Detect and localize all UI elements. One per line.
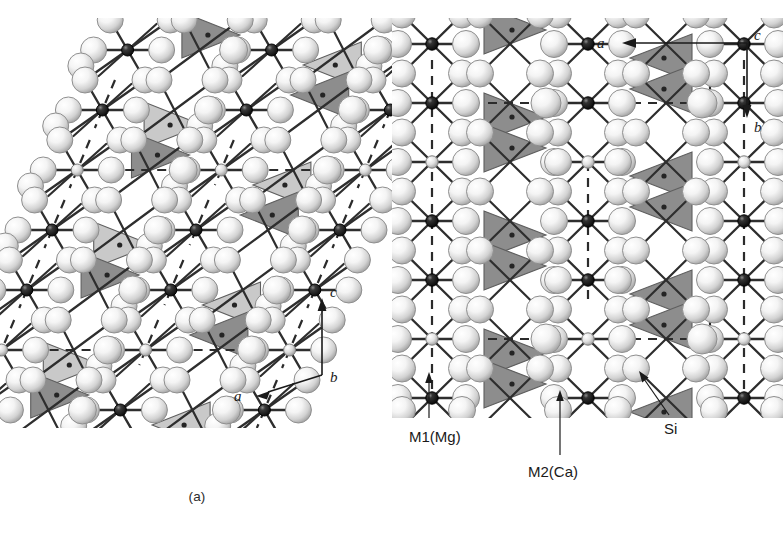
atom-oxygen — [344, 247, 370, 273]
atom-oxygen — [683, 178, 710, 205]
atom-oxygen — [265, 127, 291, 153]
si-center-dot — [168, 122, 173, 127]
atom-oxygen — [392, 397, 416, 424]
atom-oxygen — [70, 247, 96, 273]
atom-cation-m1 — [334, 224, 346, 236]
atom-oxygen — [346, 67, 372, 93]
si-center-dot — [509, 114, 514, 119]
atom-oxygen — [467, 237, 494, 264]
si-center-dot — [54, 392, 59, 397]
atom-oxygen — [217, 217, 243, 243]
label-si: Si — [664, 420, 677, 437]
si-center-dot — [661, 55, 666, 60]
crystal-structure-figure: c b a (a) — [0, 0, 783, 539]
atom-cation-m1 — [738, 274, 750, 286]
si-center-dot — [509, 27, 514, 32]
si-center-dot — [219, 332, 224, 337]
atom-oxygen — [152, 187, 178, 213]
atom-oxygen — [605, 267, 632, 294]
atom-cation-m1 — [122, 44, 134, 56]
atom-cation-m2 — [71, 164, 83, 176]
atom-cation-m1 — [309, 284, 321, 296]
atom-oxygen — [214, 247, 240, 273]
atom-oxygen — [392, 1, 416, 28]
atom-cation-m1 — [582, 274, 594, 286]
atom-oxygen — [220, 36, 248, 64]
si-center-dot — [67, 362, 72, 367]
atom-oxygen — [296, 187, 322, 213]
atom-oxygen — [68, 396, 96, 424]
panel-b: c b a M1(Mg) M2(Ca) Si (b) — [392, 0, 783, 539]
atom-oxygen — [467, 119, 494, 146]
panel-b-annotations: M1(Mg) M2(Ca) Si — [409, 371, 677, 480]
atom-oxygen — [47, 127, 73, 153]
atom-oxygen — [245, 307, 271, 333]
atom-oxygen — [683, 60, 710, 87]
atom-oxygen — [453, 31, 480, 58]
si-center-dot — [509, 381, 514, 386]
atom-oxygen — [697, 31, 724, 58]
atom-oxygen — [392, 31, 412, 58]
atom-oxygen — [23, 337, 49, 363]
atom-cation-m1 — [426, 215, 438, 227]
atom-oxygen — [453, 208, 480, 235]
atom-oxygen — [189, 307, 215, 333]
atom-oxygen — [101, 307, 127, 333]
atom-oxygen — [242, 157, 268, 183]
atom-oxygen — [336, 277, 362, 303]
atom-cation-m1 — [738, 38, 750, 50]
atom-oxygen — [263, 276, 291, 304]
si-center-dot — [509, 145, 514, 150]
atom-oxygen — [697, 208, 724, 235]
si-center-dot — [105, 272, 110, 277]
si-center-dot — [509, 263, 514, 268]
atom-oxygen — [761, 178, 783, 205]
atom-cation-m2 — [0, 344, 8, 356]
atom-cation-m2 — [738, 156, 750, 168]
atom-oxygen — [20, 367, 46, 393]
atom-oxygen — [765, 267, 783, 294]
atom-oxygen — [761, 296, 783, 323]
atom-oxygen — [315, 7, 341, 33]
atom-oxygen — [167, 337, 193, 363]
atom-oxygen — [609, 208, 636, 235]
panel-a: c b a (a) — [0, 0, 392, 539]
si-center-dot — [320, 92, 325, 97]
atom-oxygen — [623, 296, 650, 323]
atom-cation-m2 — [582, 156, 594, 168]
atom-oxygen — [527, 178, 554, 205]
atom-oxygen — [697, 267, 724, 294]
atom-oxygen — [238, 336, 266, 364]
si-center-dot — [282, 182, 287, 187]
axis-label-c: c — [754, 27, 761, 43]
atom-oxygen — [623, 178, 650, 205]
atom-oxygen — [371, 7, 392, 33]
atom-oxygen — [194, 96, 222, 124]
atom-oxygen — [220, 367, 246, 393]
panel-b-structure-diagram: c b a M1(Mg) M2(Ca) Si — [392, 0, 783, 539]
atom-cation-m1 — [190, 224, 202, 236]
atom-oxygen — [149, 37, 175, 63]
si-center-dot — [661, 204, 666, 209]
atom-oxygen — [338, 96, 366, 124]
panel-a-structure-diagram: c b a — [0, 0, 392, 539]
atom-oxygen — [609, 326, 636, 353]
atom-oxygen — [453, 149, 480, 176]
atom-oxygen — [123, 97, 149, 123]
si-center-dot — [509, 350, 514, 355]
atom-oxygen — [192, 277, 218, 303]
atom-cation-m1 — [114, 404, 126, 416]
si-center-dot — [182, 422, 187, 427]
atom-oxygen — [72, 67, 98, 93]
atom-oxygen — [453, 90, 480, 117]
atom-oxygen — [392, 149, 412, 176]
label-m1-mg: M1(Mg) — [409, 428, 461, 445]
atom-oxygen — [467, 60, 494, 87]
atom-oxygen — [761, 355, 783, 382]
atom-cation-m2 — [140, 344, 152, 356]
atom-oxygen — [761, 60, 783, 87]
atom-cation-m1 — [384, 104, 392, 116]
atom-cation-m1 — [165, 284, 177, 296]
atom-oxygen — [146, 67, 172, 93]
atom-oxygen — [527, 355, 554, 382]
